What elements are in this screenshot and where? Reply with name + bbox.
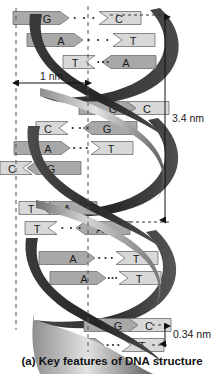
- dna-structure-figure: GCATTAGCCGATCGTATAATATGCAT: [0, 0, 224, 374]
- figure-text-labels: 1 nm 3.4 nm 0.34 nm (a) Key features of …: [0, 0, 224, 374]
- width-measure-label: 1 nm: [40, 70, 63, 82]
- rise-measure-label: 0.34 nm: [173, 328, 211, 340]
- figure-caption: (a) Key features of DNA structure: [0, 355, 224, 367]
- height-measure-label: 3.4 nm: [172, 112, 204, 124]
